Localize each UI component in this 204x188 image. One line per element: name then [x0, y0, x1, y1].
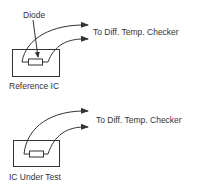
test-ic-label: IC Under Test: [9, 172, 61, 182]
diode-pointer-arrow: [33, 20, 38, 57]
reference-ic-label: Reference IC: [9, 81, 59, 91]
reference-wire-lower: [48, 39, 88, 62]
test-ic-group: [14, 111, 89, 167]
diode-label: Diode: [23, 10, 45, 20]
test-diode-symbol: [30, 151, 44, 157]
test-output-label: To Diff. Temp. Checker: [96, 115, 182, 125]
reference-wire-upper: [22, 25, 88, 62]
reference-output-label: To Diff. Temp. Checker: [93, 27, 179, 37]
test-wire-upper: [24, 111, 88, 154]
reference-diode-symbol: [29, 59, 43, 65]
reference-ic-group: [13, 20, 89, 77]
